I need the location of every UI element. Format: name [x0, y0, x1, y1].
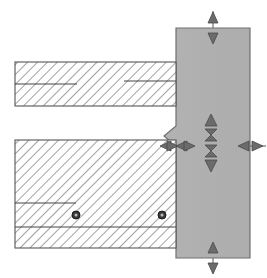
- lower-beam-outline: [15, 140, 176, 248]
- fastener-left-core: [75, 214, 78, 217]
- upper-horizontal-beam: [15, 62, 176, 106]
- vertical-column: [164, 28, 250, 258]
- fastener-right-core: [161, 214, 164, 217]
- technical-drawing-canvas: [0, 0, 267, 278]
- section-detail-svg: [0, 0, 267, 278]
- lower-horizontal-beam: [15, 140, 176, 248]
